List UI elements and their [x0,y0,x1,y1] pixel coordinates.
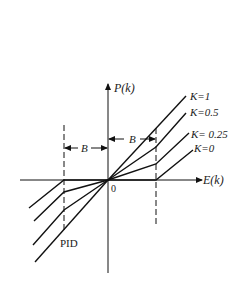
curve-label-k0: K=0 [193,142,215,154]
x-axis-label: E(k) [202,173,224,187]
pid-label: PID [60,237,78,249]
curve-label-k05: K=0.5 [189,106,219,118]
curve-k025-right [108,133,189,180]
nonlinear-pid-gain-diagram: P(k) E(k) 0 B B PID K=1 K=0.5 K= 0.25 K=… [0,0,238,289]
band-label-right: B [129,133,136,145]
curve-label-k1: K=1 [189,90,210,102]
y-axis-label: P(k) [113,81,135,95]
band-label-left: B [81,142,88,154]
curve-label-k025: K= 0.25 [190,128,228,140]
curve-k1-left [35,180,108,262]
origin-label: 0 [111,183,116,194]
curve-k025-left [34,180,108,221]
